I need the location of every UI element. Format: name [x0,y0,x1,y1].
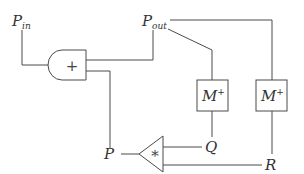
label-p: P [103,145,115,163]
wire-adder-to-pout [86,30,153,60]
wire-adder-to-p [86,71,110,148]
wire-pout-to-mplus-right [170,20,272,80]
wire-pout-to-mplus-left [168,29,212,80]
label-p-out: Pout [141,12,167,31]
multiplier-symbol: * [151,147,159,165]
diagram-canvas: + M+ M+ * Pin Pout P Q R [0,0,304,174]
label-q: Q [205,138,217,156]
adder-symbol: + [66,57,79,75]
label-r: R [264,156,276,174]
wire-pin-to-adder [22,30,52,65]
label-p-in: Pin [11,12,31,31]
diagram-svg: + M+ M+ * Pin Pout P Q R [0,0,304,174]
